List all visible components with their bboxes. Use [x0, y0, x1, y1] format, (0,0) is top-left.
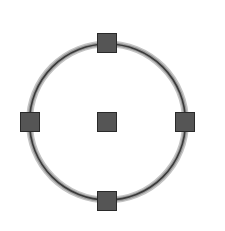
- resize-handle-top[interactable]: [97, 33, 117, 53]
- resize-handle-left[interactable]: [20, 112, 40, 132]
- figure-canvas: [0, 0, 225, 231]
- move-handle-center[interactable]: [97, 112, 117, 132]
- resize-handle-bottom[interactable]: [97, 191, 117, 211]
- resize-handle-right[interactable]: [175, 112, 195, 132]
